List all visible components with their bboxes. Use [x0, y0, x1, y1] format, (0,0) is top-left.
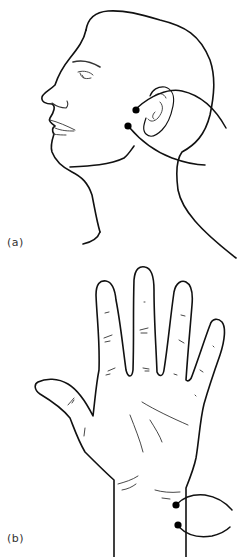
figure-panel-b-hand: [0, 260, 243, 557]
electrode-wrist-lower: [174, 521, 181, 528]
jaw-line: [70, 146, 134, 167]
electrode-lower-face: [124, 122, 131, 129]
electrode-upper-face: [132, 106, 139, 113]
hand-outline: [35, 267, 224, 557]
head-outline: [86, 11, 236, 258]
head-profile-illustration: [0, 0, 243, 260]
electrode-wrist-upper: [172, 501, 179, 508]
hand-illustration: [0, 260, 243, 557]
eyebrow: [73, 61, 100, 67]
figure-panel-a-head: [0, 0, 243, 260]
electrode-wire-lower: [129, 127, 205, 165]
finger-creases: [104, 302, 214, 396]
neck-front: [83, 232, 100, 244]
panel-label-a: (a): [7, 236, 24, 249]
eye: [78, 71, 93, 78]
panel-label-b: (b): [7, 532, 24, 545]
wrist-creases: [118, 476, 180, 499]
palm-lines: [68, 398, 188, 452]
